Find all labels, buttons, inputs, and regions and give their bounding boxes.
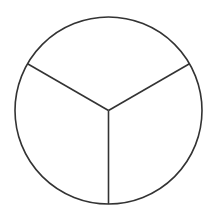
divided-circle-diagram bbox=[0, 0, 210, 217]
